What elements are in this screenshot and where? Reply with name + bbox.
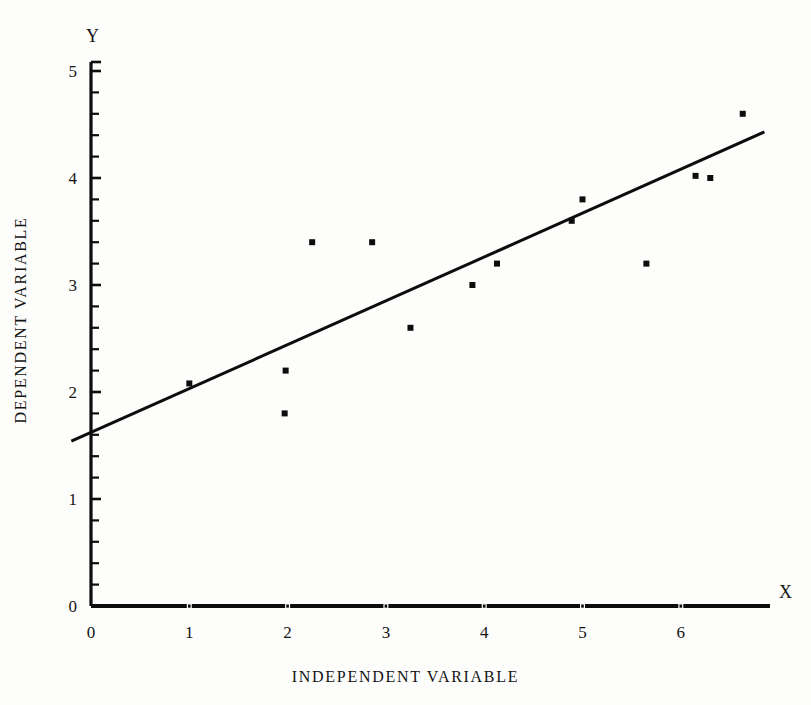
regression-line-path [71,132,764,441]
x-axis-tick [680,605,683,608]
data-point [407,325,413,331]
data-point [469,282,475,288]
y-tick-label: 3 [69,277,78,294]
data-point [643,261,649,267]
x-axis-title: INDEPENDENT VARIABLE [0,668,811,686]
x-axis-tick [286,605,289,608]
y-tick-label: 0 [69,598,78,615]
y-axis-letter: Y [86,27,99,45]
x-tick-label: 5 [578,624,587,641]
data-point [569,218,575,224]
data-point [282,410,288,416]
data-point [580,196,586,202]
data-point [740,111,746,117]
data-point [283,368,289,374]
x-tick-label: 2 [283,624,292,641]
x-axis-tick [581,605,584,608]
x-axis-tick [188,605,191,608]
data-point [494,261,500,267]
scatter-plot-figure: 0123456 012345 Y X INDEPENDENT VARIABLE … [0,0,811,705]
x-tick-label: 1 [185,624,194,641]
y-axis-title: DEPENDENT VARIABLE [12,150,38,490]
x-tick-label: 3 [382,624,391,641]
data-point [186,380,192,386]
y-axis [91,62,101,606]
x-axis-tick [385,605,388,608]
data-point [369,239,375,245]
regression-line [71,132,764,441]
y-tick-label: 4 [69,170,78,187]
x-tick-label: 6 [677,624,686,641]
data-point [309,239,315,245]
x-axis-letter: X [779,583,792,601]
data-point [693,173,699,179]
plot-canvas [0,0,811,705]
x-tick-label: 4 [480,624,489,641]
x-axis [91,605,770,608]
y-tick-label: 5 [69,63,78,80]
data-point [707,175,713,181]
y-tick-label: 2 [69,384,78,401]
x-axis-tick [483,605,486,608]
x-tick-label: 0 [87,624,96,641]
y-tick-label: 1 [69,491,78,508]
